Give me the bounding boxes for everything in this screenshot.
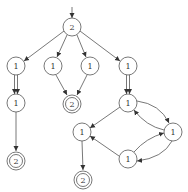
node-n0: 2 [63, 18, 81, 36]
node-n10: 1 [164, 123, 182, 141]
node-label: 1 [50, 62, 55, 71]
node-n11: 1 [119, 150, 137, 168]
node-label: 2 [13, 157, 18, 166]
node-label: 1 [125, 62, 130, 71]
node-label: 1 [125, 155, 130, 164]
edge-n0-n3 [77, 35, 86, 57]
edge-n7-n9 [90, 107, 120, 128]
node-label: 1 [170, 128, 175, 137]
node-n6-accepting: 2 [63, 95, 81, 113]
edge-n10-n7 [134, 110, 164, 130]
node-n7: 1 [119, 94, 137, 112]
node-n2: 1 [44, 57, 62, 75]
edge-n11-n9 [90, 136, 119, 156]
node-label: 1 [79, 128, 84, 137]
edge-n3-n6 [77, 75, 87, 95]
node-label: 1 [87, 62, 92, 71]
node-n8-accepting: 2 [7, 152, 25, 170]
node-label: 1 [13, 62, 18, 71]
node-n5: 1 [7, 94, 25, 112]
node-n1: 1 [7, 57, 25, 75]
node-label: 1 [125, 99, 130, 108]
edge-n11-n10 [134, 133, 164, 152]
node-label: 2 [69, 100, 74, 109]
state-diagram: 2 1 1 1 1 1 2 1 2 1 1 1 [0, 0, 188, 192]
edge-n7-n10 [137, 101, 169, 123]
node-n12-accepting: 2 [74, 171, 92, 189]
edge-n0-n1 [24, 31, 64, 61]
edge-n0-n2 [57, 35, 67, 57]
edge-n9-n12 [82, 141, 83, 170]
node-n4: 1 [119, 57, 137, 75]
node-label: 1 [13, 99, 18, 108]
node-n3: 1 [81, 57, 99, 75]
node-n9: 1 [73, 123, 91, 141]
node-label: 2 [69, 23, 74, 32]
node-label: 2 [80, 176, 85, 185]
edge-n2-n6 [56, 75, 67, 95]
